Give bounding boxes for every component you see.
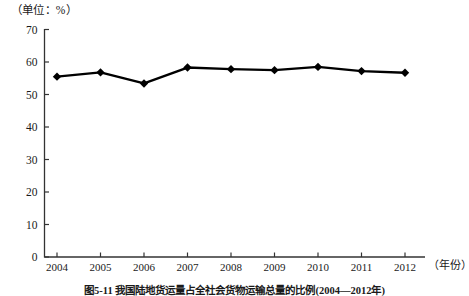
x-tick-label: 2012 (394, 261, 416, 273)
y-tick-group: 010203040506070 (26, 24, 49, 264)
y-tick-label: 70 (26, 24, 38, 36)
x-tick-group: 200420052006200720082009201020112012 (46, 253, 416, 274)
x-tick-label: 2009 (264, 261, 287, 273)
x-tick-label: 2010 (307, 261, 330, 273)
x-tick-label: 2011 (351, 261, 373, 273)
x-tick-label: 2007 (177, 261, 200, 273)
data-point-marker (401, 69, 409, 77)
x-tick-label: 2006 (133, 261, 156, 273)
y-tick-label: 40 (26, 121, 38, 133)
data-point-marker (270, 66, 278, 74)
x-tick-label: 2005 (90, 261, 113, 273)
y-tick-label: 50 (26, 89, 38, 101)
x-tick-label: 2008 (220, 261, 243, 273)
y-tick-label: 60 (26, 56, 38, 68)
y-tick-label: 10 (26, 219, 38, 231)
figure-caption: 图5-11 我国陆地货运量占全社会货物运输总量的比例(2004—2012年) (0, 284, 469, 296)
x-axis-title: （年份） (428, 256, 469, 272)
line-chart-plot: 010203040506070 200420052006200720082009… (0, 0, 469, 296)
data-point-marker (227, 65, 235, 73)
data-point-marker (96, 68, 104, 76)
y-tick-label: 20 (26, 186, 38, 198)
data-point-marker (140, 79, 148, 87)
data-point-marker (183, 63, 191, 71)
chart-figure: （单位：%） 010203040506070 20042005200620072… (0, 0, 469, 296)
data-point-marker (53, 72, 61, 80)
series-markers (53, 63, 409, 88)
data-point-marker (314, 63, 322, 71)
y-tick-label: 30 (26, 154, 38, 166)
data-point-marker (357, 67, 365, 75)
y-tick-label: 0 (32, 251, 38, 263)
x-tick-label: 2004 (46, 261, 69, 273)
